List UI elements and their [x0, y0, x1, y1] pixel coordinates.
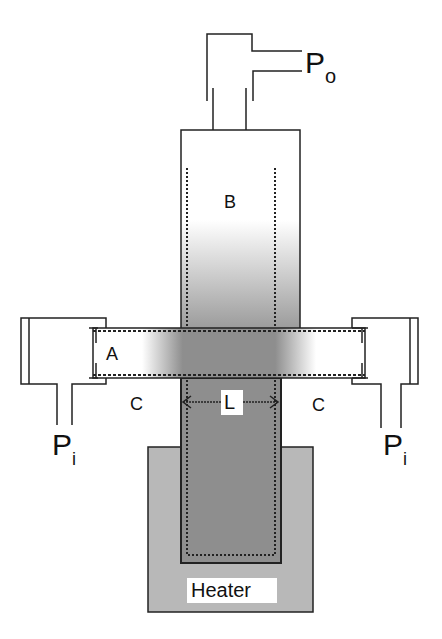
region-c-left-label: C	[130, 395, 143, 413]
region-a-label: A	[106, 345, 118, 363]
region-c-right-label: C	[312, 396, 325, 414]
horizontal-tube	[93, 328, 365, 378]
region-b-label: B	[224, 193, 236, 211]
neck	[213, 88, 246, 130]
length-label: L	[224, 392, 235, 412]
inlet-right-subscript: i	[403, 449, 407, 469]
outlet-pressure-symbol: P	[305, 46, 325, 79]
outlet-cap	[207, 34, 302, 101]
heater-label: Heater	[191, 580, 251, 600]
inlet-left-subscript: i	[72, 449, 76, 469]
outlet-pressure-label: Po	[305, 48, 336, 86]
inlet-left-symbol: P	[52, 428, 72, 461]
outlet-pressure-subscript: o	[325, 65, 336, 87]
inlet-pressure-right-label: Pi	[383, 430, 407, 468]
inlet-pressure-left-label: Pi	[52, 430, 76, 468]
inlet-right-symbol: P	[383, 428, 403, 461]
apparatus-diagram	[0, 0, 442, 639]
vertical-tube	[181, 130, 300, 330]
